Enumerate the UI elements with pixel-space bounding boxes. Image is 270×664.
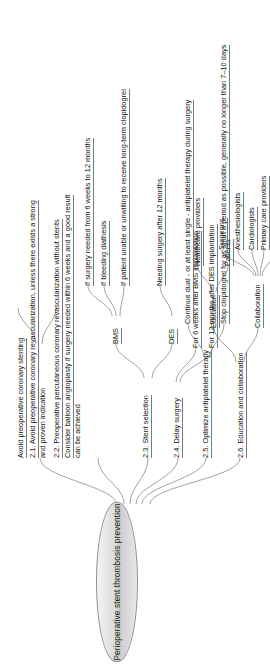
branch-2-5-label[interactable]: 2.5. Optimize antiplatelet therapy (201, 350, 212, 458)
branch-2-2-label[interactable]: 2.2. Preoperative percutaneous coronary … (52, 219, 63, 458)
node-bms[interactable]: BMS (111, 328, 122, 344)
node-bms-child-2[interactable]: If bleeding diathesis (99, 221, 110, 286)
node-collaboration-child-2[interactable]: Anesthesiologists (233, 192, 244, 250)
node-avoid-preoperative-coronary-stenting[interactable]: Avoid preoperative coronary stenting (16, 338, 27, 458)
node-bms-child-1[interactable]: If surgery needed from 6 weeks to 12 mon… (83, 138, 94, 286)
node-collaboration-child-4[interactable]: Primary care providers (259, 176, 270, 250)
node-collaboration-child-1[interactable]: Surgeons (217, 218, 228, 250)
mindmap-canvas: Perioperative stent thrombosis preventio… (0, 0, 270, 664)
node-des[interactable]: DES (167, 329, 178, 344)
node-collaboration-child-3[interactable]: Cardiologists (247, 207, 258, 250)
node-collaboration[interactable]: Collaboration (253, 284, 264, 328)
branch-2-6-label[interactable]: 2.6. Education and collaboration (236, 352, 247, 458)
node-education-child-1[interactable]: Healthcare providers (193, 198, 204, 266)
mindmap: Perioperative stent thrombosis preventio… (0, 0, 270, 664)
node-education[interactable]: Education (209, 295, 220, 328)
branch-2-3-label[interactable]: 2.3. Stent selection (141, 395, 152, 458)
branch-2-2-child-line2[interactable]: can be achieved (73, 404, 83, 458)
branch-2-5-child-2[interactable]: Stop clopidogrel for as short a period a… (219, 45, 230, 324)
node-bms-child-3[interactable]: If patient unable or unwilling to receiv… (119, 89, 130, 286)
mindmap-rotation-wrapper: Perioperative stent thrombosis preventio… (0, 0, 270, 664)
root-node[interactable]: Perioperative stent thrombosis preventio… (96, 502, 138, 662)
node-des-child-1[interactable]: Needing surgery after 12 months (155, 178, 166, 286)
branch-2-1-line2[interactable]: and proven indication (38, 388, 48, 458)
branch-2-4-label[interactable]: 2.4. Delay surgery (172, 398, 183, 458)
